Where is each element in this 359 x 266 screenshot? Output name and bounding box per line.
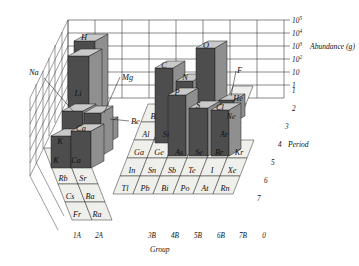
y-tick-exp-0: 5 bbox=[299, 15, 302, 21]
y-axis-title: Abundance (g) bbox=[309, 42, 355, 51]
cell-label-In: In bbox=[128, 166, 136, 175]
period-label-5: 5 bbox=[271, 159, 275, 167]
cell-label-Br: Br bbox=[215, 148, 224, 157]
cell-label-Ra: Ra bbox=[91, 210, 101, 219]
period-label-1: 1 bbox=[292, 87, 296, 95]
group-label-5B: 5B bbox=[194, 232, 203, 240]
cell-label-At: At bbox=[200, 184, 209, 193]
cell-label-Ba: Ba bbox=[85, 192, 94, 201]
bar-label-N: N bbox=[181, 73, 188, 82]
cell-label-Bi: Bi bbox=[161, 184, 169, 193]
period-label-7: 7 bbox=[257, 195, 261, 203]
cell-label-Po: Po bbox=[179, 184, 189, 193]
group-label-7B: 7B bbox=[239, 232, 248, 240]
y-tick-mantissa-4: 10 bbox=[292, 68, 300, 77]
cell-label-Si: Si bbox=[163, 130, 170, 139]
group-label-2A: 2A bbox=[95, 232, 104, 240]
y-tick-exp-1: 4 bbox=[299, 28, 302, 34]
bar-label-C: C bbox=[161, 61, 167, 70]
cell-label-K: K bbox=[52, 156, 59, 165]
cell-label-Sb: Sb bbox=[168, 166, 176, 175]
bar-label-P: P bbox=[173, 88, 179, 97]
y-tick-exp-3: 2 bbox=[299, 54, 302, 60]
callout-label-Na: Na bbox=[28, 68, 39, 77]
cell-label-Se: Se bbox=[195, 148, 203, 157]
cell-label-Xe: Xe bbox=[227, 166, 237, 175]
group-label-3B: 3B bbox=[147, 232, 157, 240]
period-label-6: 6 bbox=[264, 177, 268, 185]
cell-label-Ca: Ca bbox=[71, 156, 81, 165]
cell-label-Sr: Sr bbox=[79, 174, 87, 183]
cell-label-He: He bbox=[232, 94, 243, 103]
period-axis-title: Period bbox=[287, 140, 309, 149]
cell-label-B: B bbox=[150, 112, 155, 121]
group-axis-title: Group bbox=[150, 245, 170, 254]
cell-label-Rn: Rn bbox=[219, 184, 229, 193]
callout-label-Mg: Mg bbox=[121, 73, 133, 82]
cell-label-Cs: Cs bbox=[66, 192, 75, 201]
figure-canvas: .gl{stroke:#2b2b2b;stroke-width:0.55;fil… bbox=[0, 0, 359, 266]
cell-label-Rb: Rb bbox=[57, 174, 67, 183]
cell-label-Ne: Ne bbox=[225, 112, 235, 121]
cell-label-Ga: Ga bbox=[134, 148, 144, 157]
group-label-0: 0 bbox=[262, 232, 266, 240]
cell-label-Fr: Fr bbox=[72, 210, 82, 219]
callout-label-F: F bbox=[236, 66, 243, 75]
cell-label-Ar: Ar bbox=[219, 130, 229, 139]
cell-label-Ge: Ge bbox=[154, 148, 164, 157]
y-tick-4: 10 bbox=[292, 68, 300, 77]
bar-label-Li: Li bbox=[74, 89, 83, 98]
cell-label-Pb: Pb bbox=[139, 184, 149, 193]
group-label-6B: 6B bbox=[217, 232, 226, 240]
group-label-4B: 4B bbox=[171, 232, 180, 240]
cell-label-Sn: Sn bbox=[148, 166, 156, 175]
cell-label-Kr: Kr bbox=[234, 148, 244, 157]
period-label-4: 4 bbox=[278, 141, 282, 149]
period-label-3: 3 bbox=[284, 123, 289, 131]
bar-label-O: O bbox=[203, 41, 209, 50]
callout-label-Be: Be bbox=[131, 117, 140, 126]
period-label-2: 2 bbox=[292, 105, 296, 113]
group-label-1A: 1A bbox=[73, 232, 82, 240]
bar-label-K: K bbox=[56, 137, 63, 146]
cell-label-Al: Al bbox=[141, 130, 150, 139]
cell-label-As: As bbox=[174, 148, 183, 157]
cell-label-Te: Te bbox=[188, 166, 196, 175]
cell-label-Tl: Tl bbox=[122, 184, 130, 193]
bar-label-Ca: Ca bbox=[76, 124, 86, 133]
bar-label-Cl: Cl bbox=[216, 103, 225, 112]
periodic-abundance-3d-chart: .gl{stroke:#2b2b2b;stroke-width:0.55;fil… bbox=[0, 0, 359, 266]
y-tick-exp-2: 3 bbox=[299, 41, 302, 47]
bar-label-H: H bbox=[80, 33, 88, 42]
